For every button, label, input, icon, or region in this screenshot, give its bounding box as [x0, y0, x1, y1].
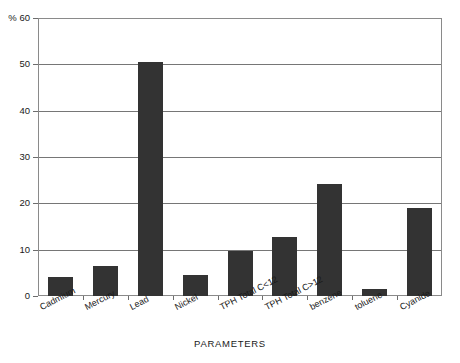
x-axis-tick-mark [83, 296, 84, 300]
x-axis-tick-mark [218, 296, 219, 300]
bar [407, 208, 432, 296]
x-axis [38, 296, 442, 302]
x-axis-tick-mark [307, 296, 308, 300]
x-axis-tick-mark [352, 296, 353, 300]
bars-layer [0, 0, 460, 363]
x-axis-tick-mark [128, 296, 129, 300]
bar [93, 266, 118, 296]
bar [138, 62, 163, 296]
bar [317, 184, 342, 296]
x-axis-title: PARAMETERS [0, 338, 460, 349]
bar [183, 275, 208, 296]
bar [228, 251, 253, 296]
bar-chart-figure: 01020304050% 60 CadmiumMercuryLeadNickel… [0, 0, 460, 363]
x-axis-tick-mark [262, 296, 263, 300]
x-axis-tick-mark [397, 296, 398, 300]
x-axis-tick-mark [173, 296, 174, 300]
bar [362, 289, 387, 296]
bar [48, 277, 73, 296]
bar [272, 237, 297, 296]
